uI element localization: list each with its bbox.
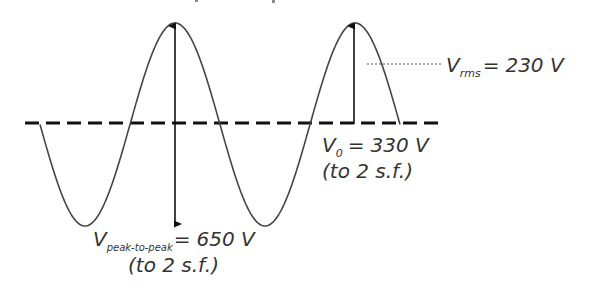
cropped-text-fragment — [195, 0, 198, 2]
peak-precision-note: (to 2 s.f.) — [322, 159, 413, 183]
peak-value: 330 V — [370, 133, 430, 157]
peak-to-peak-precision-note: (to 2 s.f.) — [128, 253, 219, 277]
rms-value: 230 V — [505, 53, 565, 77]
peak-to-peak-value: 650 V — [197, 227, 257, 251]
peak-to-peak-label: Vpeak-to-peak=650 V — [93, 227, 256, 253]
peak-to-peak-subscript: peak-to-peak — [106, 242, 174, 253]
peak-to-peak-equals: = — [174, 227, 191, 251]
rms-label: Vrms=230 V — [446, 53, 565, 80]
cropped-text-fragment — [272, 0, 275, 3]
peak-equals: = — [348, 133, 365, 157]
peak-label: V0=330 V — [322, 133, 430, 160]
rms-subscript: rms — [460, 67, 481, 80]
rms-equals: = — [483, 53, 500, 77]
ac-voltage-diagram: Vrms=230 V V0=330 V (to 2 s.f.) Vpeak-to… — [0, 0, 593, 294]
